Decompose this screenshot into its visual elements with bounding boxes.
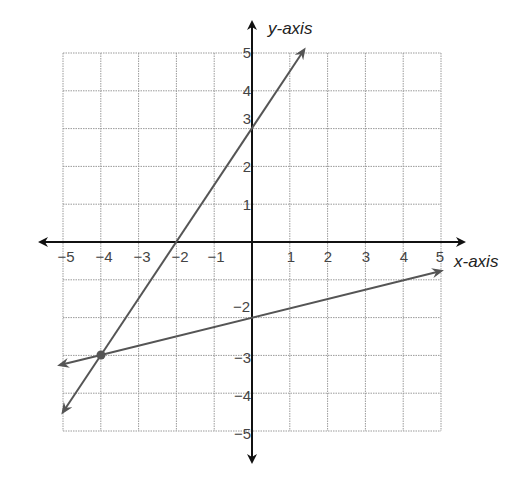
y-axis-title: y-axis (267, 19, 313, 38)
x-tick-labels: −5 −4 −3 −2 −1 1 2 3 4 5 (57, 248, 444, 265)
svg-text:−4: −4 (234, 387, 251, 404)
line-1-upper (101, 50, 304, 355)
x-axis-title: x-axis (453, 252, 499, 271)
svg-text:−5: −5 (234, 425, 251, 442)
line-2-right (101, 271, 441, 355)
svg-text:−1: −1 (207, 248, 224, 265)
svg-text:−2: −2 (233, 298, 250, 315)
svg-text:5: 5 (243, 44, 251, 61)
svg-text:5: 5 (436, 248, 444, 265)
svg-text:2: 2 (243, 158, 251, 175)
svg-text:1: 1 (287, 248, 295, 265)
svg-text:2: 2 (324, 248, 332, 265)
svg-text:−2: −2 (171, 248, 188, 265)
svg-text:4: 4 (400, 248, 408, 265)
svg-text:1: 1 (243, 196, 251, 213)
svg-text:−5: −5 (57, 248, 74, 265)
svg-text:3: 3 (362, 248, 370, 265)
svg-text:3: 3 (243, 110, 251, 127)
svg-text:4: 4 (243, 82, 251, 99)
svg-text:−3: −3 (133, 248, 150, 265)
coordinate-plane: −5 −4 −3 −2 −1 1 2 3 4 5 5 4 3 2 1 −2 −3… (0, 0, 528, 483)
svg-text:−3: −3 (234, 349, 251, 366)
intersection-point (97, 351, 106, 360)
svg-text:−4: −4 (95, 248, 112, 265)
